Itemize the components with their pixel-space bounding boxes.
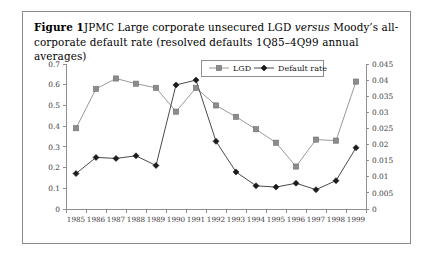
data-point-lgd (213, 103, 218, 108)
data-point-lgd (253, 127, 258, 132)
data-point-default-rate (273, 184, 279, 190)
right-axis-tick-label: 0.04 (372, 76, 389, 85)
series-line-lgd (76, 79, 356, 167)
x-axis-tick-label: 1999 (347, 215, 366, 224)
data-point-lgd (313, 137, 318, 142)
data-point-lgd (353, 79, 358, 84)
data-point-lgd (133, 81, 138, 86)
data-point-default-rate (353, 145, 359, 151)
x-axis-tick-label: 1998 (327, 215, 346, 224)
x-axis-tick-label: 1993 (227, 215, 246, 224)
data-point-default-rate (333, 178, 339, 184)
x-axis: 1985198619871988198919901991199219931994… (66, 209, 366, 224)
x-axis-tick-label: 1985 (67, 215, 86, 224)
legend-label-default-rate: Default rate (278, 64, 327, 73)
data-point-default-rate (193, 77, 199, 83)
caption-emphasis: versus (295, 21, 330, 33)
x-axis-tick-label: 1997 (307, 215, 326, 224)
right-axis-tick-label: 0 (372, 205, 377, 214)
x-axis-tick-label: 1987 (107, 215, 126, 224)
line-chart: 00.10.20.30.40.50.60.7 00.0050.010.0150.… (23, 56, 410, 244)
x-axis-tick-label: 1992 (207, 215, 225, 224)
data-point-default-rate (213, 138, 219, 144)
chart-legend: LGDDefault rate (201, 60, 327, 76)
data-point-lgd (216, 65, 221, 70)
data-point-default-rate (153, 163, 159, 169)
caption-text-1: JPMC Large corporate unsecured LGD (84, 21, 295, 33)
figure-frame: Figure 1JPMC Large corporate unsecured L… (22, 11, 411, 244)
data-point-lgd (193, 85, 198, 90)
right-axis-tick-label: 0.03 (372, 108, 389, 117)
x-axis-tick-label: 1995 (267, 215, 286, 224)
right-axis-tick-label: 0.015 (372, 156, 393, 165)
series-layer (73, 76, 359, 193)
left-axis-tick-label: 0.4 (48, 122, 60, 131)
x-axis-tick-label: 1986 (87, 215, 106, 224)
data-point-lgd (113, 76, 118, 81)
x-axis-tick-label: 1989 (147, 215, 166, 224)
data-point-lgd (73, 126, 78, 131)
left-axis-tick-label: 0 (55, 205, 60, 214)
data-point-lgd (293, 164, 298, 169)
data-point-default-rate (253, 183, 259, 189)
data-point-default-rate (293, 180, 299, 186)
figure-label: Figure 1 (34, 21, 84, 33)
chart-plot-area: 00.10.20.30.40.50.60.7 00.0050.010.0150.… (23, 56, 410, 244)
left-axis: 00.10.20.30.40.50.60.7 (48, 60, 66, 214)
right-axis-tick-label: 0.025 (372, 124, 393, 133)
x-axis-tick-label: 1996 (287, 215, 306, 224)
series-line-default-rate (76, 80, 356, 190)
data-point-default-rate (313, 187, 319, 193)
data-point-lgd (93, 86, 98, 91)
right-axis-tick-label: 0.005 (372, 189, 393, 198)
right-axis-tick-label: 0.045 (372, 60, 393, 69)
data-point-lgd (333, 138, 338, 143)
data-point-lgd (233, 114, 238, 119)
data-point-lgd (153, 85, 158, 90)
left-axis-tick-label: 0.2 (48, 163, 60, 172)
data-point-lgd (273, 140, 278, 145)
data-point-lgd (173, 109, 178, 114)
x-axis-tick-label: 1994 (247, 215, 266, 224)
right-axis-tick-label: 0.035 (372, 92, 393, 101)
x-axis-tick-label: 1988 (127, 215, 146, 224)
legend-label-lgd: LGD (233, 64, 251, 73)
x-axis-tick-label: 1991 (187, 215, 205, 224)
right-axis-tick-label: 0.02 (372, 140, 388, 149)
right-axis: 00.0050.010.0150.020.0250.030.0350.040.0… (366, 60, 393, 214)
x-axis-tick-label: 1990 (167, 215, 186, 224)
left-axis-tick-label: 0.3 (48, 143, 60, 152)
left-axis-tick-label: 0.5 (48, 101, 60, 110)
right-axis-tick-label: 0.01 (372, 172, 388, 181)
left-axis-tick-label: 0.7 (48, 60, 60, 69)
left-axis-tick-label: 0.6 (48, 80, 60, 89)
data-point-default-rate (233, 169, 239, 175)
data-point-default-rate (133, 153, 139, 159)
data-point-default-rate (113, 155, 119, 161)
data-point-default-rate (173, 82, 179, 88)
left-axis-tick-label: 0.1 (48, 184, 60, 193)
figure-page: Figure 1JPMC Large corporate unsecured L… (0, 0, 433, 256)
